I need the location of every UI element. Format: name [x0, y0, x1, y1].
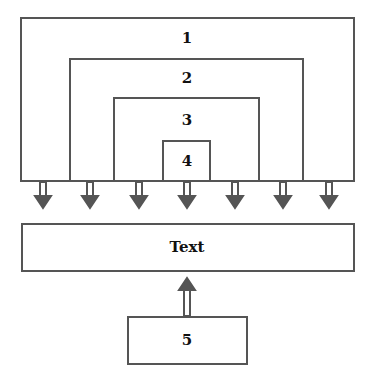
text-label: Text: [157, 238, 217, 256]
down-arrow-icon: [321, 182, 337, 208]
down-arrow-icon: [227, 182, 243, 208]
down-arrow-icon: [131, 182, 147, 208]
up-arrow-icon: [179, 278, 195, 316]
source-label: 5: [167, 331, 207, 349]
down-arrow-icon: [35, 182, 51, 208]
down-arrow-icon: [82, 182, 98, 208]
down-arrow-icon: [275, 182, 291, 208]
down-arrow-icon: [179, 182, 195, 208]
